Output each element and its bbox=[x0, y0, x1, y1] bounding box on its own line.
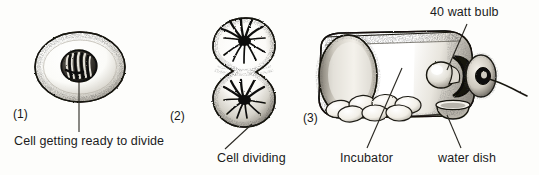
incubator-drawing bbox=[295, 0, 539, 175]
caption-40-watt-bulb: 40 watt bulb bbox=[430, 6, 499, 19]
panel-number-1: (1) bbox=[13, 108, 28, 120]
caption-incubator: Incubator bbox=[340, 152, 393, 165]
caption-cell-dividing: Cell dividing bbox=[217, 152, 286, 165]
leader-line-cell-dividing bbox=[225, 124, 252, 149]
cell-dividing-drawing bbox=[160, 0, 295, 175]
panel-incubator: (3) 40 watt bulb Incubator water dish bbox=[295, 0, 539, 175]
leader-line-water-dish bbox=[447, 115, 461, 148]
panel-number-2: (2) bbox=[170, 110, 185, 122]
illustration-figure: (1) Cell getting ready to divide bbox=[0, 0, 539, 175]
panel-cell-ready-to-divide: (1) Cell getting ready to divide bbox=[0, 0, 160, 175]
panel-cell-dividing: (2) Cell dividing bbox=[160, 0, 295, 175]
cell-ready-to-divide-drawing bbox=[0, 0, 160, 175]
panel-number-3: (3) bbox=[303, 112, 318, 124]
nucleus bbox=[61, 50, 97, 82]
caption-water-dish: water dish bbox=[438, 152, 496, 165]
reflector-plate bbox=[466, 55, 496, 97]
caption-cell-getting-ready-to-divide: Cell getting ready to divide bbox=[14, 135, 164, 148]
